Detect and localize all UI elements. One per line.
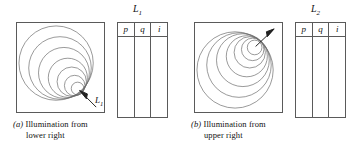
table-title-a-sub: 1 xyxy=(139,9,143,17)
table-row xyxy=(118,37,168,118)
table-header-p: p xyxy=(118,23,135,37)
illumination-square-b xyxy=(194,22,283,113)
table-row xyxy=(296,37,346,118)
table-cell-q xyxy=(134,37,151,118)
table-cell-p xyxy=(118,37,135,118)
caption-b-line2: upper right xyxy=(191,130,351,141)
table-header-i: i xyxy=(329,23,346,37)
table-header-row: p q i xyxy=(118,23,168,37)
caption-a-letter: (a) xyxy=(13,119,23,129)
illumination-square-a xyxy=(16,22,105,113)
measurement-table-a: p q i xyxy=(117,22,168,118)
table-cell-q xyxy=(312,37,329,118)
figure-root: L1 L1 p q i (a) Illumination xyxy=(0,0,356,155)
caption-a: (a) Illumination from lower right xyxy=(13,119,173,141)
panel-a: L1 L1 p q i (a) Illumination xyxy=(0,0,178,155)
table-header-q: q xyxy=(134,23,151,37)
caption-b-line1: (b) Illumination from xyxy=(191,119,351,130)
table-title-a: L1 xyxy=(133,4,142,17)
caption-a-text1: Illumination from xyxy=(25,119,87,129)
caption-b-text1: Illumination from xyxy=(203,119,265,129)
table-header-i: i xyxy=(151,23,168,37)
caption-a-line1: (a) Illumination from xyxy=(13,119,173,130)
caption-b-letter: (b) xyxy=(191,119,201,129)
table-cell-i xyxy=(151,37,168,118)
table-cell-p xyxy=(296,37,313,118)
table-header-q: q xyxy=(312,23,329,37)
panel-b: L2 L2 p q i (b) Illumination xyxy=(178,0,356,155)
table-header-p: p xyxy=(296,23,313,37)
light-source-label-a-sub: 1 xyxy=(100,100,103,107)
table-title-b: L2 xyxy=(311,4,320,17)
light-arrow-a xyxy=(17,23,104,112)
table-cell-i xyxy=(329,37,346,118)
caption-b: (b) Illumination from upper right xyxy=(191,119,351,141)
table-title-b-sub: 2 xyxy=(317,9,321,17)
caption-a-line2: lower right xyxy=(13,130,173,141)
table-header-row: p q i xyxy=(296,23,346,37)
measurement-table-b: p q i xyxy=(295,22,346,118)
light-arrow-b xyxy=(195,23,282,112)
light-source-label-a: L1 xyxy=(95,96,103,107)
